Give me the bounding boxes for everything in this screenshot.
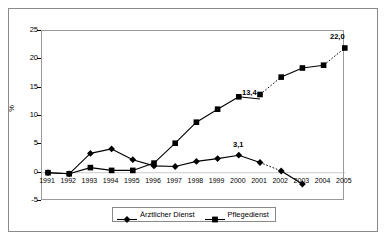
x-axis-labels: 1991 1992 1993 1994 1995 1996 1997 1998 … — [41, 176, 344, 190]
y-tick-label-5: 5 — [16, 139, 38, 147]
pflegedienst-point-1998 — [194, 119, 200, 125]
chart-legend: Ärztlicher Dienst Pflegedienst — [112, 207, 276, 222]
legend-entry-pflegedienst[interactable]: Pflegedienst — [205, 210, 269, 219]
series-pflegedienst — [45, 45, 347, 176]
pflegedienst-point-1993 — [88, 165, 94, 171]
pflegedienst-point-2000 — [236, 94, 242, 100]
y-tick-mark-neg5 — [37, 200, 41, 201]
legend-label-pflegedienst: Pflegedienst — [228, 210, 269, 219]
y-axis-ticks: 25 20 15 10 5 0 -5 — [10, 30, 38, 200]
pflegedienst-point-2004 — [321, 62, 327, 68]
point-label-13-4: 13,4 — [242, 88, 257, 97]
chart-figure: % 25 20 15 10 5 0 -5 — [0, 0, 386, 240]
aerztlicher-point-2000 — [235, 152, 242, 159]
pflegedienst-point-2002 — [278, 74, 284, 80]
y-tick-label-15: 15 — [16, 83, 38, 91]
pflegedienst-point-2005 — [342, 45, 348, 51]
pflegedienst-line-dashed-1 — [260, 77, 281, 94]
plot-area: 3,1 13,4 22,0 — [41, 30, 344, 200]
pflegedienst-point-1995 — [130, 168, 136, 174]
aerztlicher-line-dashed — [260, 163, 281, 172]
aerztlicher-point-1995 — [129, 156, 136, 163]
square-marker-icon — [205, 210, 225, 219]
y-tick-label-neg5: -5 — [16, 196, 38, 204]
y-tick-label-10: 10 — [16, 111, 38, 119]
y-tick-label-0: 0 — [16, 168, 38, 176]
pflegedienst-point-1997 — [172, 140, 178, 146]
diamond-marker-icon — [117, 210, 137, 219]
aerztlicher-point-1997 — [172, 163, 179, 170]
point-label-22-0: 22,0 — [330, 32, 345, 41]
y-tick-label-20: 20 — [16, 54, 38, 62]
pflegedienst-point-2003 — [300, 65, 306, 71]
pflegedienst-point-1999 — [215, 106, 221, 112]
x-tick-label-2005: 2005 — [331, 176, 357, 185]
aerztlicher-point-1998 — [193, 158, 200, 165]
y-tick-label-25: 25 — [16, 26, 38, 34]
legend-entry-aerztlicher-dienst[interactable]: Ärztlicher Dienst — [117, 210, 195, 219]
aerztlicher-point-2001 — [257, 159, 264, 166]
aerztlicher-point-2002 — [278, 168, 285, 175]
legend-label-aerztlicher-dienst: Ärztlicher Dienst — [140, 210, 195, 219]
pflegedienst-point-2001 — [257, 92, 263, 98]
aerztlicher-point-1994 — [108, 146, 115, 153]
pflegedienst-line-dashed-2 — [324, 48, 345, 65]
aerztlicher-point-1999 — [214, 155, 221, 162]
pflegedienst-point-1994 — [109, 168, 115, 174]
point-label-3-1: 3,1 — [233, 140, 243, 149]
